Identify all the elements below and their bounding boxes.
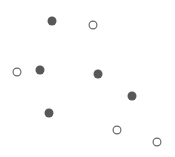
scatter-plot-figure <box>0 0 175 157</box>
data-point-filled <box>48 17 57 26</box>
scatter-plot-canvas <box>0 0 175 157</box>
data-point-filled <box>94 70 103 79</box>
data-point-open <box>89 21 97 29</box>
data-point-filled <box>128 92 137 101</box>
data-point-filled <box>45 109 54 118</box>
plot-background <box>0 0 175 157</box>
data-point-open <box>13 68 21 76</box>
data-point-open <box>153 138 161 146</box>
data-point-open <box>113 126 121 134</box>
data-point-filled <box>36 66 45 75</box>
